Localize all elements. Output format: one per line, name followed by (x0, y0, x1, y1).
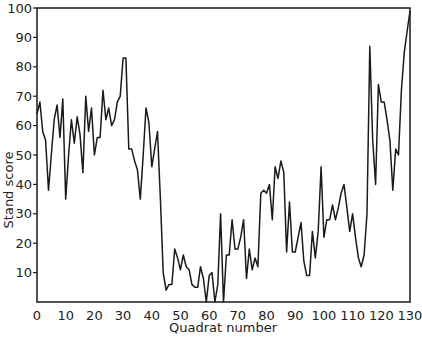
x-tick-label: 100 (312, 308, 337, 323)
x-axis-title: Quadrat number (169, 320, 278, 335)
y-tick-label: 40 (15, 177, 32, 192)
x-tick-label: 40 (143, 308, 160, 323)
x-tick-label: 120 (369, 308, 394, 323)
x-tick-label: 0 (33, 308, 41, 323)
y-axis-ticks: 102030405060708090100 (7, 1, 37, 281)
x-tick-label: 20 (86, 308, 103, 323)
x-tick-label: 130 (398, 308, 422, 323)
line-chart: 102030405060708090100 010203040506070809… (0, 0, 422, 338)
y-tick-label: 60 (15, 118, 32, 133)
y-tick-label: 100 (7, 1, 32, 16)
y-axis-title: Stand score (1, 152, 16, 229)
y-tick-label: 80 (15, 59, 32, 74)
y-tick-label: 10 (15, 265, 32, 280)
y-tick-label: 90 (15, 30, 32, 45)
y-tick-label: 20 (15, 236, 32, 251)
x-tick-label: 110 (340, 308, 365, 323)
x-tick-label: 10 (57, 308, 74, 323)
y-tick-label: 50 (15, 148, 32, 163)
stand-score-line (37, 11, 410, 302)
x-tick-label: 90 (287, 308, 304, 323)
plot-frame (37, 8, 410, 302)
x-tick-label: 30 (115, 308, 132, 323)
y-tick-label: 70 (15, 89, 32, 104)
y-tick-label: 30 (15, 206, 32, 221)
